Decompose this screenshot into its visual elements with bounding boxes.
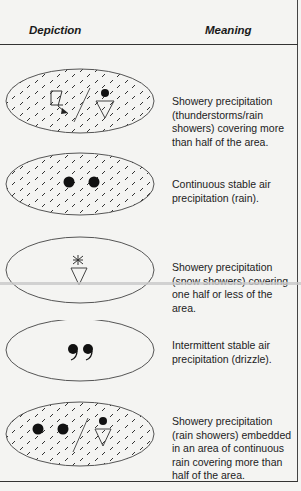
- meaning-text: Showery precipitation (rain showers) emb…: [172, 415, 296, 483]
- table-header: Depiction Meaning: [0, 0, 298, 45]
- column-header-meaning: Meaning: [205, 24, 252, 36]
- meaning-text: Continuous stable air precipitation (rai…: [172, 178, 296, 205]
- column-header-depiction: Depiction: [29, 24, 81, 36]
- snow-shower-ellipse-icon: [2, 234, 160, 306]
- embedded-rain-shower-shaded-ellipse-icon: [2, 400, 160, 470]
- table-row: Showery precipitation (rain showers) emb…: [0, 400, 298, 480]
- drizzle-ellipse-icon: [2, 320, 160, 384]
- meaning-text: Showery precipitation (thunderstorms/rai…: [172, 95, 296, 149]
- meaning-text: Intermittent stable air precipitation (d…: [172, 339, 296, 366]
- meaning-text: Showery precipitation (snow showers) cov…: [172, 261, 296, 315]
- table-row: Showery precipitation (thunderstorms/rai…: [0, 66, 298, 146]
- scan-artifact-band: [0, 282, 301, 285]
- table-row: Showery precipitation (snow showers) cov…: [0, 234, 298, 314]
- table-row: Intermittent stable air precipitation (d…: [0, 320, 298, 390]
- table-row: Continuous stable air precipitation (rai…: [0, 152, 298, 232]
- thunderstorm-rain-shower-shaded-ellipse-icon: [2, 66, 160, 136]
- continuous-rain-shaded-ellipse-icon: [2, 152, 160, 218]
